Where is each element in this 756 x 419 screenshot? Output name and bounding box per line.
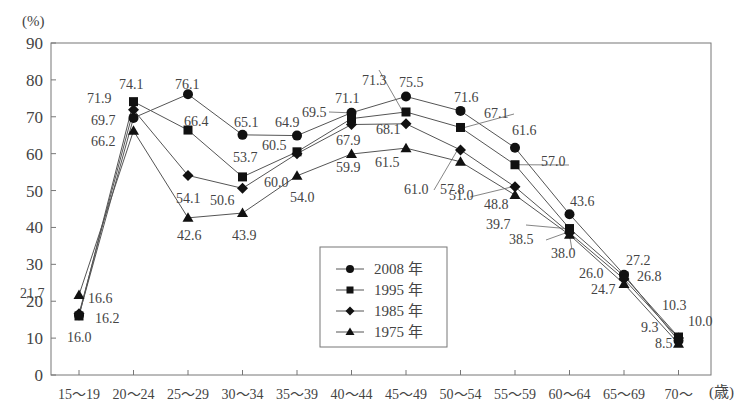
data-label: 69.7 <box>91 113 116 128</box>
data-label: 10.3 <box>662 298 687 313</box>
legend: 2008 年1995 年1985 年1975 年 <box>320 247 447 347</box>
triangle-marker-icon <box>401 143 412 153</box>
data-label: 71.6 <box>454 90 479 105</box>
data-label: 71.9 <box>87 91 112 106</box>
y-tick-label: 30 <box>26 255 43 274</box>
x-axis-unit: (歳) <box>709 384 734 401</box>
data-label: 57.0 <box>541 154 566 169</box>
data-label: 42.6 <box>177 228 202 243</box>
triangle-marker-icon <box>237 208 248 218</box>
data-label: 27.2 <box>626 253 651 268</box>
data-label: 54.0 <box>290 190 315 205</box>
data-label: 16.2 <box>95 311 120 326</box>
y-tick-label: 80 <box>26 71 43 90</box>
data-label: 51.0 <box>449 188 474 203</box>
x-tick-label: 70～ <box>665 387 693 402</box>
data-label: 38.0 <box>551 246 576 261</box>
data-label: 21.7 <box>20 286 45 301</box>
data-label: 68.1 <box>376 122 401 137</box>
data-label: 60.5 <box>262 138 287 153</box>
data-label: 24.7 <box>591 282 616 297</box>
legend-item-label: 1975 年 <box>374 324 423 340</box>
x-tick-label: 25～29 <box>167 387 209 402</box>
x-tick-label: 55～59 <box>494 387 536 402</box>
leader-line <box>526 225 566 229</box>
data-label: 66.2 <box>91 134 116 149</box>
data-label: 67.9 <box>336 133 361 148</box>
data-label: 53.7 <box>233 150 258 165</box>
data-label: 43.9 <box>232 228 257 243</box>
line-chart: 0102030405060708090(%)15～1920～2425～2930～… <box>0 0 756 419</box>
data-label: 60.0 <box>264 175 289 190</box>
leader-line <box>546 233 566 240</box>
diamond-marker-icon <box>237 183 248 194</box>
data-label: 69.5 <box>302 105 327 120</box>
data-label: 71.1 <box>335 91 360 106</box>
y-tick-label: 70 <box>26 108 43 127</box>
data-label: 64.9 <box>275 115 300 130</box>
diamond-marker-icon <box>455 144 466 155</box>
square-marker-icon <box>511 160 520 169</box>
square-marker-icon <box>347 287 354 294</box>
triangle-marker-icon <box>74 289 85 299</box>
leader-line <box>470 187 512 197</box>
data-label: 16.0 <box>67 330 92 345</box>
data-label: 38.5 <box>509 232 534 247</box>
data-label: 67.1 <box>484 106 509 121</box>
data-label: 26.0 <box>579 266 604 281</box>
data-label: 76.1 <box>175 77 200 92</box>
square-marker-icon <box>456 123 465 132</box>
square-marker-icon <box>402 107 411 116</box>
data-label: 65.1 <box>234 115 259 130</box>
data-label: 8.5 <box>655 336 673 351</box>
circle-marker-icon <box>401 91 411 101</box>
data-label: 61.0 <box>404 182 429 197</box>
x-tick-label: 40～44 <box>331 387 373 402</box>
y-tick-label: 60 <box>26 145 43 164</box>
circle-marker-icon <box>456 106 466 116</box>
leader-lines <box>329 70 572 250</box>
x-tick-label: 45～49 <box>385 387 427 402</box>
data-label: 39.7 <box>486 217 511 232</box>
y-tick-label: 50 <box>26 182 43 201</box>
triangle-marker-icon <box>292 170 303 180</box>
data-label: 43.6 <box>570 194 595 209</box>
circle-marker-icon <box>292 131 302 141</box>
data-label: 9.3 <box>641 320 659 335</box>
circle-marker-icon <box>346 265 354 273</box>
diamond-marker-icon <box>183 170 194 181</box>
data-label: 59.9 <box>336 160 361 175</box>
circle-marker-icon <box>510 143 520 153</box>
data-label: 74.1 <box>119 77 144 92</box>
y-tick-label: 40 <box>26 218 43 237</box>
x-tick-label: 50～54 <box>440 387 482 402</box>
data-label: 26.8 <box>637 269 662 284</box>
data-label: 66.4 <box>184 114 209 129</box>
data-label: 10.0 <box>688 314 713 329</box>
x-tick-label: 65～69 <box>603 387 645 402</box>
y-tick-label: 90 <box>26 34 43 53</box>
y-tick-label: 10 <box>26 329 43 348</box>
x-tick-label: 20～24 <box>113 387 155 402</box>
legend-item-label: 2008 年 <box>374 261 423 277</box>
diamond-marker-icon <box>401 118 412 129</box>
square-marker-icon <box>238 172 247 181</box>
legend-item-label: 1995 年 <box>374 282 423 298</box>
x-tick-label: 15～19 <box>58 387 100 402</box>
x-tick-label: 35～39 <box>276 387 318 402</box>
data-label: 50.6 <box>210 193 235 208</box>
data-label: 54.1 <box>176 191 201 206</box>
data-label: 61.6 <box>512 123 537 138</box>
leader-line <box>329 112 348 113</box>
y-axis-unit: (%) <box>22 13 45 30</box>
data-label: 61.5 <box>375 155 400 170</box>
data-label: 71.3 <box>362 73 387 88</box>
data-label: 48.8 <box>484 197 509 212</box>
triangle-marker-icon <box>510 189 521 199</box>
legend-item-label: 1985 年 <box>374 303 423 319</box>
circle-marker-icon <box>238 130 248 140</box>
x-tick-label: 30～34 <box>222 387 264 402</box>
y-tick-label: 0 <box>35 366 44 385</box>
circle-marker-icon <box>565 209 575 219</box>
data-label: 16.6 <box>88 291 113 306</box>
